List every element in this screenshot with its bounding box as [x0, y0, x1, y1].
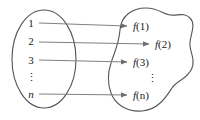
arrow-n-to-fn — [39, 94, 127, 95]
range-vertical-ellipsis: ⋮ — [147, 73, 158, 84]
range-element-f1: f(1) — [133, 21, 149, 32]
arrow-3-to-f3 — [39, 60, 127, 62]
domain-set-ellipse — [12, 10, 76, 108]
function-mapping-diagram: 1 2 3 ⋮ n f(1) f(2) f(3) ⋮ f(n) — [0, 0, 200, 120]
domain-vertical-ellipsis: ⋮ — [26, 72, 37, 83]
range-element-fn: f(n) — [133, 90, 149, 101]
arrow-1-to-f1 — [39, 23, 127, 26]
range-set-blob — [108, 8, 193, 111]
domain-element-1: 1 — [28, 18, 34, 29]
range-element-f2: f(2) — [155, 39, 171, 50]
domain-element-n: n — [28, 89, 34, 100]
domain-element-3: 3 — [28, 55, 34, 66]
arrow-2-to-f2 — [39, 42, 149, 44]
domain-element-2: 2 — [28, 36, 34, 47]
range-element-f3: f(3) — [133, 57, 149, 68]
